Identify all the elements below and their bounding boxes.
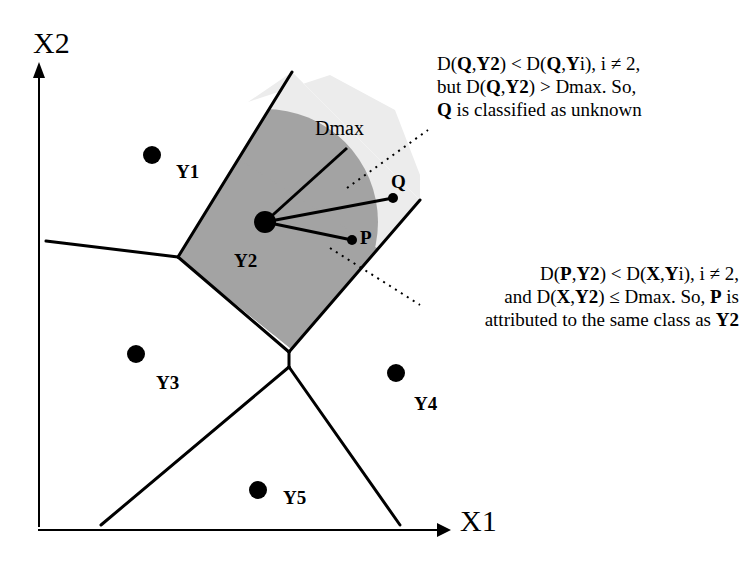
q-annotation: D(Q,Y2) < D(Q,Yi), i ≠ 2, but D(Q,Y2) > … (437, 52, 642, 121)
p-note-line2: and D(X,Y2) ≤ Dmax. So, P is (485, 285, 739, 308)
q-note-line2: but D(Q,Y2) > Dmax. So, (437, 75, 642, 98)
point-p (347, 235, 357, 245)
label-dmax: Dmax (315, 118, 364, 138)
q-note-line3: Q is classified as unknown (437, 98, 642, 121)
y-axis (33, 62, 45, 527)
label-y3: Y3 (156, 373, 179, 392)
q-note-line1: D(Q,Y2) < D(Q,Yi), i ≠ 2, (437, 52, 642, 75)
point-q (388, 193, 398, 203)
x-axis-label: X1 (460, 506, 497, 536)
point-y1 (143, 146, 161, 164)
label-y4: Y4 (414, 394, 437, 413)
label-q: Q (391, 172, 406, 191)
label-p: P (360, 228, 372, 247)
p-note-line1: D(P,Y2) < D(X,Yi), i ≠ 2, (485, 262, 739, 285)
label-y1: Y1 (176, 162, 199, 181)
point-y2 (254, 211, 276, 233)
label-y5: Y5 (283, 488, 306, 507)
label-y2: Y2 (234, 251, 257, 270)
p-annotation: D(P,Y2) < D(X,Yi), i ≠ 2, and D(X,Y2) ≤ … (485, 262, 739, 331)
p-note-line3: attributed to the same class as Y2 (485, 308, 739, 331)
point-y4 (387, 364, 405, 382)
point-y3 (127, 345, 145, 363)
y-axis-label: X2 (33, 28, 70, 58)
point-y5 (249, 481, 267, 499)
